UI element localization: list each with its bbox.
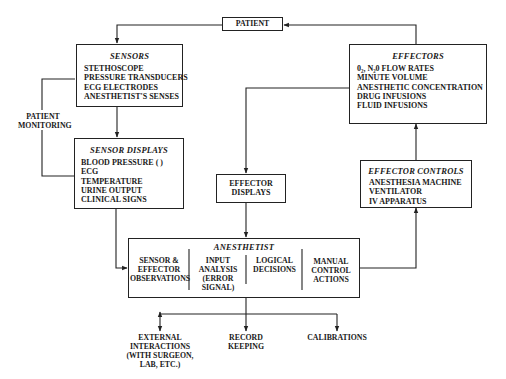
- col-line: (ERROR: [191, 274, 245, 283]
- effector-controls-item: ANESTHESIA MACHINE: [369, 178, 471, 187]
- output-line: (WITH SURGEON,: [125, 351, 195, 360]
- sensor-displays-item: TEMPERATURE: [81, 177, 183, 186]
- record-keeping-label: RECORD KEEPING: [221, 333, 271, 351]
- sensors-item: STETHOSCOPE: [84, 64, 182, 73]
- effector-controls-item: IV APPARATUS: [369, 197, 471, 206]
- patient-monitoring-label: PATIENT MONITORING: [18, 112, 68, 130]
- output-line: RECORD: [221, 333, 271, 342]
- effector-controls-title: EFFECTOR CONTROLS: [361, 166, 471, 176]
- effector-displays-line: EFFECTOR: [217, 179, 285, 188]
- effectors-item: MINUTE VOLUME: [357, 73, 486, 82]
- effectors-title: EFFECTORS: [350, 51, 486, 61]
- anesthetist-col-logical-decisions: LOGICAL DECISIONS: [248, 256, 301, 274]
- sensor-displays-item: URINE OUTPUT: [81, 186, 183, 195]
- effector-displays-line: DISPLAYS: [217, 188, 285, 197]
- sensors-item: ECG ELECTRODES: [84, 83, 182, 92]
- sensors-title: SENSORS: [77, 51, 182, 61]
- effectors-item: ANESTHETIC CONCENTRATION: [357, 83, 486, 92]
- output-line: LAB, ETC.): [125, 360, 195, 369]
- col-line: ANALYSIS: [191, 265, 245, 274]
- output-line: EXTERNAL: [125, 333, 195, 342]
- sensors-item: PRESSURE TRANSDUCERS: [84, 73, 182, 82]
- col-line: MANUAL: [304, 257, 358, 266]
- effector-controls-item: VENTILATOR: [369, 187, 471, 196]
- external-interactions-label: EXTERNAL INTERACTIONS (WITH SURGEON, LAB…: [125, 333, 195, 369]
- anesthetist-col-manual-control: MANUAL CONTROL ACTIONS: [304, 257, 358, 284]
- anesthetist-title: ANESTHETIST: [129, 242, 359, 252]
- sensor-displays-item: CLINICAL SIGNS: [81, 195, 183, 204]
- anesthetist-col-observations: SENSOR & EFFECTOR OBSERVATIONS: [130, 256, 188, 283]
- sensor-displays-item: ECG: [81, 167, 183, 176]
- sensor-displays-title: SENSOR DISPLAYS: [75, 145, 183, 155]
- col-line: ACTIONS: [304, 275, 358, 284]
- effectors-item: FLUID INFUSIONS: [357, 101, 486, 110]
- col-line: DECISIONS: [248, 265, 301, 274]
- effectors-item: 0₂, N₂0 FLOW RATES: [357, 64, 486, 73]
- col-line: SIGNAL): [191, 283, 245, 292]
- col-line: LOGICAL: [248, 256, 301, 265]
- col-line: OBSERVATIONS: [130, 274, 188, 283]
- col-line: INPUT: [191, 256, 245, 265]
- calibrations-label: CALIBRATIONS: [302, 333, 372, 342]
- sensor-displays-box: SENSOR DISPLAYS BLOOD PRESSURE ( ) ECG T…: [74, 138, 184, 209]
- output-line: INTERACTIONS: [125, 342, 195, 351]
- effector-displays-box: EFFECTOR DISPLAYS: [216, 174, 286, 203]
- effector-controls-box: EFFECTOR CONTROLS ANESTHESIA MACHINE VEN…: [360, 160, 472, 208]
- patient-monitoring-line: PATIENT: [18, 112, 68, 121]
- output-line: KEEPING: [221, 342, 271, 351]
- effectors-item: DRUG INFUSIONS: [357, 92, 486, 101]
- output-line: CALIBRATIONS: [302, 333, 372, 342]
- col-line: EFFECTOR: [130, 265, 188, 274]
- effectors-box: EFFECTORS 0₂, N₂0 FLOW RATES MINUTE VOLU…: [349, 44, 487, 124]
- patient-box: PATIENT: [222, 17, 283, 31]
- sensor-displays-item: BLOOD PRESSURE ( ): [81, 158, 183, 167]
- patient-label: PATIENT: [223, 18, 282, 30]
- col-line: SENSOR &: [130, 256, 188, 265]
- patient-monitoring-line: MONITORING: [18, 121, 68, 130]
- sensors-box: SENSORS STETHOSCOPE PRESSURE TRANSDUCERS…: [76, 44, 183, 107]
- sensors-item: ANESTHETIST'S SENSES: [84, 92, 182, 101]
- col-line: CONTROL: [304, 266, 358, 275]
- anesthetist-col-input-analysis: INPUT ANALYSIS (ERROR SIGNAL): [191, 256, 245, 292]
